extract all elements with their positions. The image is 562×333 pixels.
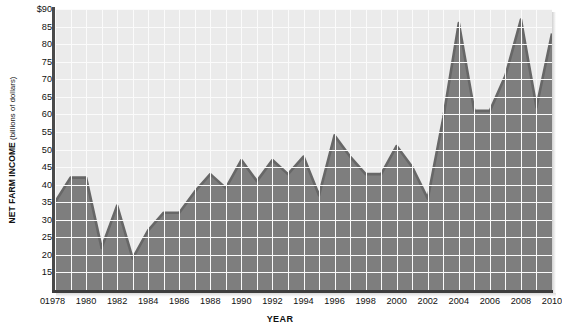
x-axis-tick: 1978 [45,296,65,306]
x-axis-tick: 1992 [262,296,282,306]
grid-line-vertical [86,9,87,290]
grid-line-vertical [505,9,506,290]
grid-line-vertical [335,9,336,290]
y-axis-tick-labels: $90858075706560555045403530252015 [22,0,52,300]
y-axis-tick: $90 [37,5,52,14]
grid-line-vertical [412,9,413,290]
grid-line-vertical [521,9,522,290]
x-axis-tick: 2002 [418,296,438,306]
x-axis-tick: 1984 [138,296,158,306]
grid-line-vertical [350,9,351,290]
grid-line-vertical [195,9,196,290]
y-axis-tick: 60 [42,110,52,119]
x-axis-tick: 1994 [293,296,313,306]
grid-line-vertical [210,9,211,290]
x-axis-tick: 1998 [355,296,375,306]
grid-line-vertical [288,9,289,290]
y-axis-tick: 45 [42,163,52,172]
y-axis-tick: 20 [42,250,52,259]
y-axis-label-text: NET FARM INCOME (billions of dollars) [7,77,17,224]
grid-line-vertical [304,9,305,290]
grid-line-vertical [102,9,103,290]
grid-line-vertical [536,9,537,290]
x-axis-tick: 2004 [449,296,469,306]
grid-line-vertical [272,9,273,290]
y-axis-tick: 80 [42,40,52,49]
grid-line-vertical [319,9,320,290]
grid-line-vertical [459,9,460,290]
grid-line-vertical [428,9,429,290]
y-axis-tick: 40 [42,180,52,189]
grid-line-vertical [474,9,475,290]
x-axis-tick: 1982 [107,296,127,306]
x-axis-tick: 1990 [231,296,251,306]
grid-line-vertical [257,9,258,290]
x-axis-tick: 2006 [480,296,500,306]
plot-area [55,9,552,290]
plot-shadow-right [552,12,556,293]
y-axis-tick: 30 [42,215,52,224]
grid-line-vertical [366,9,367,290]
y-axis-label: NET FARM INCOME (billions of dollars) [0,0,24,300]
x-axis-label: YEAR [0,314,560,324]
grid-line-vertical [226,9,227,290]
grid-line-vertical [179,9,180,290]
y-axis-tick: 55 [42,127,52,136]
y-axis-tick: 85 [42,22,52,31]
grid-line-vertical [55,9,56,290]
grid-line-vertical [443,9,444,290]
x-axis-tick: 1996 [324,296,344,306]
y-axis-tick: 15 [42,268,52,277]
x-axis-tick: 1988 [200,296,220,306]
grid-line-vertical [148,9,149,290]
grid-line-vertical [71,9,72,290]
grid-line-vertical [117,9,118,290]
x-axis-tick: 1980 [76,296,96,306]
y-axis-line [52,7,55,292]
x-axis-tick: 2000 [386,296,406,306]
y-axis-tick: 70 [42,75,52,84]
x-axis-tick-labels: 1978198019821984198619881990199219941996… [0,296,560,312]
y-axis-tick: 25 [42,233,52,242]
grid-line-vertical [490,9,491,290]
grid-line-vertical [133,9,134,290]
x-axis-tick: 1986 [169,296,189,306]
grid-line-vertical [381,9,382,290]
x-axis-tick: 2010 [542,296,562,306]
y-axis-tick: 35 [42,198,52,207]
grid-line-vertical [397,9,398,290]
grid-line-vertical [241,9,242,290]
grid-line-vertical [164,9,165,290]
y-axis-label-main: NET FARM INCOME [7,142,17,223]
y-axis-tick: 50 [42,145,52,154]
y-axis-label-sub: (billions of dollars) [8,77,17,143]
y-axis-tick: 75 [42,57,52,66]
y-axis-tick: 65 [42,92,52,101]
x-axis-tick: 2008 [511,296,531,306]
